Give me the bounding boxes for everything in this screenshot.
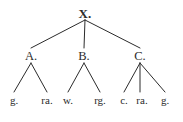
tree-node-c: C.: [134, 50, 145, 63]
tree-node-root: X.: [78, 7, 91, 20]
tree-leaf-1: g.: [10, 95, 18, 106]
tree-edge: [14, 63, 31, 92]
tree-edge: [140, 63, 165, 92]
tree-edge: [31, 63, 47, 92]
tree-leaf-7: g.: [161, 95, 169, 106]
tree-node-a: A.: [25, 50, 37, 63]
tree-leaf-4: rg.: [94, 95, 106, 106]
tree-edge: [84, 20, 85, 48]
tree-leaf-5: c.: [120, 95, 128, 106]
tree-edge: [68, 63, 84, 92]
tree-leaf-2: ra.: [41, 95, 52, 106]
tree-edge: [31, 20, 85, 48]
tree-node-b: B.: [78, 50, 89, 63]
tree-leaf-6: ra.: [136, 95, 147, 106]
tree-edge: [85, 20, 140, 48]
tree-edge: [124, 63, 140, 92]
tree-diagram: X. A. B. C. g. ra. w. rg. c. ra. g.: [0, 0, 183, 122]
tree-leaf-3: w.: [63, 95, 73, 106]
tree-edge: [84, 63, 100, 92]
